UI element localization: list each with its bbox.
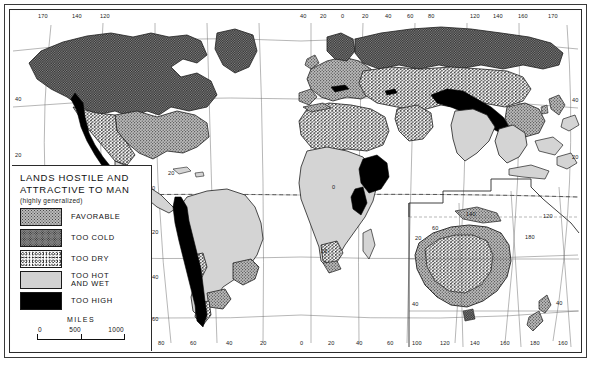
legend-label-favorable: FAVORABLE (71, 213, 120, 222)
region-favorable-korea (541, 105, 548, 114)
legend-item-too-high: TOO HIGH (20, 292, 145, 310)
tick-interior-3: 60 (152, 316, 159, 322)
tick-interior-11: 120 (543, 213, 553, 219)
tick-top-1: 140 (72, 13, 82, 19)
tick-interior-5: 20 (321, 248, 328, 254)
tick-bottom-11: 140 (470, 340, 480, 346)
legend-swatch-too-hot-icon (20, 271, 62, 289)
legend-swatch-too-dry-icon (20, 250, 62, 268)
tick-interior-4: 20 (168, 170, 175, 176)
tick-bottom-10: 120 (440, 340, 450, 346)
tick-right-0: 40 (572, 97, 579, 103)
tick-bottom-8: 60 (387, 340, 394, 346)
tick-top-6: 20 (362, 13, 369, 19)
tick-interior-12: 40 (412, 301, 419, 307)
tick-interior-2: 40 (152, 274, 159, 280)
tick-interior-8: 20 (415, 235, 422, 241)
map-figure: 170 140 120 40 20 0 20 40 60 80 120 140 … (0, 0, 591, 366)
legend-label-too-high: TOO HIGH (71, 297, 113, 306)
tick-top-12: 160 (518, 13, 528, 19)
scale-tick-0: 0 (38, 326, 42, 333)
tick-top-4: 20 (320, 13, 327, 19)
tick-bottom-12: 160 (500, 340, 510, 346)
legend-item-too-hot-and-wet: TOO HOT AND WET (20, 271, 145, 289)
legend-title-line1: LANDS HOSTILE AND (20, 172, 145, 184)
legend-label-too-hot-line2: AND WET (71, 279, 110, 288)
tick-top-11: 140 (493, 13, 503, 19)
legend-swatch-too-high-icon (20, 292, 62, 310)
legend-subtitle: (highly generalized) (20, 197, 145, 204)
legend-swatch-too-cold-icon (20, 229, 62, 247)
tick-top-9: 80 (428, 13, 435, 19)
tick-top-0: 170 (38, 13, 48, 19)
tick-top-3: 40 (300, 13, 307, 19)
tick-bottom-2: 60 (190, 340, 197, 346)
scale-tick-1: 500 (69, 326, 81, 333)
legend-label-too-cold: TOO COLD (71, 234, 115, 243)
legend-item-too-cold: TOO COLD (20, 229, 145, 247)
scale-bar-rule (37, 334, 125, 340)
tick-interior-10: 180 (525, 234, 535, 240)
legend-label-too-hot-and-wet: TOO HOT AND WET (71, 272, 110, 289)
legend-item-too-dry: TOO DRY (20, 250, 145, 268)
scale-title: MILES (20, 316, 142, 323)
tick-top-13: 170 (548, 13, 558, 19)
scale-tick-2: 1000 (108, 326, 124, 333)
legend-label-too-dry: TOO DRY (71, 255, 109, 264)
tick-interior-1: 20 (152, 229, 159, 235)
tick-bottom-7: 40 (356, 340, 363, 346)
tick-bottom-13: 180 (530, 340, 540, 346)
tick-interior-13: 40 (556, 300, 563, 306)
tick-left-1: 20 (15, 152, 22, 158)
tick-top-8: 60 (407, 13, 414, 19)
tick-top-7: 40 (385, 13, 392, 19)
tick-top-2: 120 (100, 13, 110, 19)
scale-tick-labels: 0 500 1000 (38, 326, 124, 333)
legend-title-line2: ATTRACTIVE TO MAN (20, 184, 145, 196)
tick-top-5: 0 (341, 13, 344, 19)
scale-bar: MILES 0 500 1000 (20, 316, 142, 340)
tick-top-10: 120 (470, 13, 480, 19)
tick-bottom-4: 20 (260, 340, 267, 346)
tick-bottom-3: 40 (226, 340, 233, 346)
legend-swatch-favorable-icon (20, 208, 62, 226)
tick-bottom-14: 160 (558, 340, 568, 346)
tick-bottom-5: 0 (300, 340, 303, 346)
tick-left-0: 40 (15, 96, 22, 102)
tick-bottom-6: 20 (328, 340, 335, 346)
tick-interior-0: 0 (152, 185, 155, 191)
tick-interior-9: 140 (466, 211, 476, 217)
legend-item-favorable: FAVORABLE (20, 208, 145, 226)
tick-bottom-9: 100 (412, 340, 422, 346)
map-legend: LANDS HOSTILE AND ATTRACTIVE TO MAN (hig… (12, 165, 152, 351)
tick-interior-6: 0 (332, 184, 335, 190)
tick-right-1: 20 (572, 154, 579, 160)
tick-bottom-1: 80 (158, 340, 165, 346)
tick-interior-7: 60 (432, 225, 439, 231)
